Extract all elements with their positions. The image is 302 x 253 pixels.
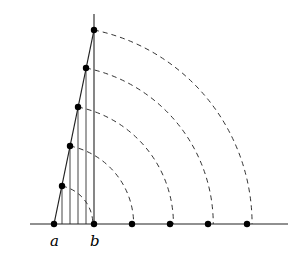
- slant-point-dot-2: [67, 143, 73, 149]
- dashed-arc-5: [94, 30, 252, 224]
- baseline-point-dot-3: [129, 221, 135, 227]
- geometric-construction-diagram: ab: [0, 0, 302, 253]
- slant-point-dot-4: [83, 65, 89, 71]
- slant-point-dot-5: [91, 27, 97, 33]
- baseline-point-dot-6: [244, 221, 250, 227]
- label-a: a: [50, 232, 59, 250]
- baseline-point-dot-4: [167, 221, 173, 227]
- slant-point-dot-1: [59, 183, 65, 189]
- dashed-arc-1: [62, 186, 93, 224]
- label-b: b: [90, 232, 100, 250]
- baseline-point-dot-5: [205, 221, 211, 227]
- slanted-line: [54, 30, 94, 224]
- dashed-arc-4: [86, 68, 213, 224]
- dashed-arc-3: [78, 107, 173, 224]
- baseline-point-dot-1: [51, 221, 57, 227]
- slant-point-dot-3: [75, 104, 81, 110]
- baseline-point-dot-2: [91, 221, 97, 227]
- dashed-arc-2: [70, 146, 134, 224]
